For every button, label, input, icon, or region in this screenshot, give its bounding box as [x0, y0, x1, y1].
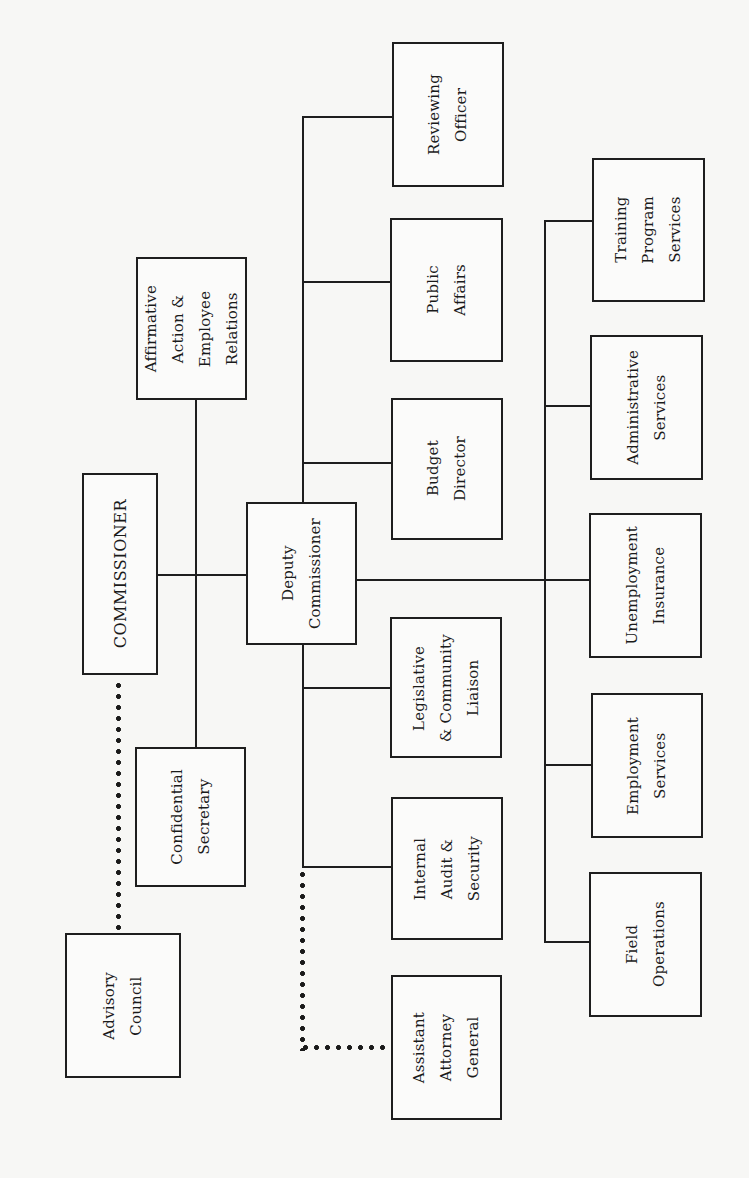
connector-employment [544, 764, 591, 766]
dotted-connector-advisory [116, 680, 121, 930]
connector-public-affairs [302, 281, 391, 283]
node-unemployment-insurance: Unemployment Insurance [589, 513, 702, 658]
node-label: Affirmative Action & Employee Relations [138, 285, 246, 372]
node-label: Training Program Services [608, 196, 689, 264]
node-label: Unemployment Insurance [619, 526, 673, 645]
node-field-operations: Field Operations [589, 872, 702, 1017]
dotted-connector-attorney-h [300, 1045, 390, 1050]
node-budget-director: Budget Director [391, 398, 503, 540]
connector-legislative [302, 687, 391, 689]
connector-administrative [544, 405, 590, 407]
node-deputy-commissioner: Deputy Commissioner [246, 502, 357, 645]
node-label: Employment Services [620, 717, 674, 815]
node-label: Deputy Commissioner [275, 518, 329, 629]
node-label: Advisory Council [96, 972, 150, 1040]
node-advisory-council: Advisory Council [65, 933, 181, 1078]
node-label: Budget Director [420, 436, 474, 501]
node-assistant-attorney-general: Assistant Attorney General [391, 975, 502, 1120]
node-reviewing-officer: Reviewing Officer [392, 42, 504, 187]
connector-reviewing [302, 116, 393, 118]
node-commissioner: COMMISSIONER [82, 473, 158, 675]
connector-training [544, 220, 592, 222]
node-label: Public Affairs [420, 264, 474, 316]
node-label: Reviewing Officer [421, 74, 475, 155]
connector-upper-spine [302, 116, 304, 503]
node-legislative-liaison: Legislative & Community Liaison [390, 617, 502, 758]
node-label: Assistant Attorney General [406, 1012, 487, 1083]
node-internal-audit: Internal Audit & Security [391, 797, 503, 940]
dotted-connector-attorney-v [300, 869, 305, 1051]
connector-deputy-operations [357, 579, 590, 581]
node-confidential-secretary: Confidential Secretary [135, 747, 246, 887]
node-label: Internal Audit & Security [407, 836, 488, 901]
connector-commissioner-deputy [158, 574, 247, 576]
connector-commissioner-staff [195, 400, 197, 747]
connector-internal-audit [302, 866, 392, 868]
node-label: Administrative Services [620, 350, 674, 465]
node-label: Confidential Secretary [164, 769, 218, 865]
connector-budget [302, 462, 392, 464]
node-employment-services: Employment Services [591, 693, 703, 838]
node-training-program-services: Training Program Services [592, 158, 705, 302]
node-label: Legislative & Community Liaison [406, 634, 487, 742]
node-label: COMMISSIONER [107, 499, 134, 648]
node-administrative-services: Administrative Services [590, 335, 703, 480]
node-public-affairs: Public Affairs [390, 218, 503, 362]
connector-lower-spine [302, 645, 304, 868]
node-affirmative-action: Affirmative Action & Employee Relations [136, 257, 247, 400]
connector-operations-spine [544, 220, 546, 941]
connector-field-operations [544, 941, 590, 943]
node-label: Field Operations [619, 901, 673, 987]
